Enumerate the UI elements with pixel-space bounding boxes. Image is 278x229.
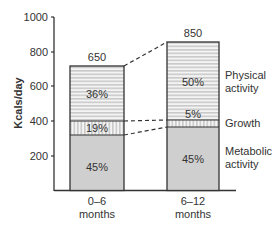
total-label: 650	[88, 51, 106, 63]
legend-metabolic-line2: activity	[225, 158, 259, 170]
segment-growth	[167, 120, 219, 127]
y-tick-1000: 1000	[24, 11, 48, 23]
pct-metabolic: 45%	[86, 161, 108, 173]
legend-physical-line2: activity	[225, 82, 259, 94]
pct-growth: 5%	[185, 108, 201, 120]
pct-physical: 50%	[182, 76, 204, 88]
pct-growth: 19%	[86, 122, 108, 134]
x-label-line2: months	[175, 208, 212, 220]
legend-physical-line1: Physical	[225, 69, 266, 81]
x-label-line1: 6–12	[181, 195, 205, 207]
y-tick-400: 400	[30, 115, 48, 127]
pct-physical: 36%	[86, 88, 108, 100]
y-axis-label: Kcals/day	[12, 76, 24, 128]
x-label-line2: months	[79, 208, 116, 220]
pct-metabolic: 45%	[182, 153, 204, 165]
bar-6-12-months: 850 50% 5% 45% 6–12 months	[167, 27, 219, 220]
y-tick-200: 200	[30, 150, 48, 162]
legend-growth: Growth	[225, 117, 260, 129]
y-tick-800: 800	[30, 46, 48, 58]
bar-0-6-months: 650 36% 19% 45% 0–6 months	[70, 51, 124, 220]
total-label: 850	[184, 27, 202, 39]
dashed-connectors	[124, 42, 167, 135]
legend: Physical activity Growth Metabolic activ…	[225, 69, 273, 170]
x-label-line1: 0–6	[88, 195, 106, 207]
y-tick-600: 600	[30, 80, 48, 92]
legend-metabolic-line1: Metabolic	[225, 145, 273, 157]
stacked-bar-chart: 1000 800 600 400 200 Kcals/day 650 36% 1…	[0, 0, 278, 229]
